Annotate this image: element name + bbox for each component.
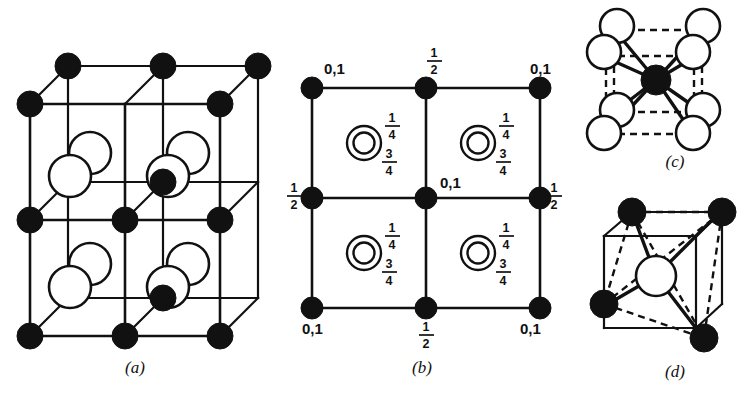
frac-denominator: 2: [431, 63, 438, 77]
double-circle-lower-left: [347, 236, 381, 270]
frac-numerator: 1: [431, 46, 438, 60]
frac-denominator: 4: [503, 128, 510, 142]
frac-denominator: 4: [389, 238, 396, 252]
label-top-left-height: 0,1: [324, 60, 345, 77]
ring-label-upper-left-quarter: 1 4: [385, 111, 400, 142]
frac-numerator: 3: [386, 147, 393, 161]
ring-label-upper-left-threequarter: 3 4: [382, 147, 397, 178]
double-circle-upper-right: [461, 126, 495, 160]
label-top-mid-half: 1 2: [427, 46, 442, 77]
panel-a-caption: (a): [105, 358, 165, 378]
panel-d-coordination-four: [586, 200, 744, 360]
frac-denominator: 4: [386, 164, 393, 178]
frac-denominator: 4: [386, 274, 393, 288]
frac-numerator: 3: [500, 147, 507, 161]
panel-c-caption: (c): [655, 152, 695, 172]
panel-d-center-open-atom: [636, 256, 676, 296]
label-center-height: 0,1: [440, 174, 461, 191]
label-bottom-right-height: 0,1: [520, 320, 541, 337]
label-mid-right-half: 1 2: [547, 181, 562, 212]
frac-denominator: 2: [551, 198, 558, 212]
frac-denominator: 2: [423, 337, 430, 351]
double-circle-upper-left: [347, 126, 381, 160]
ring-label-upper-right-quarter: 1 4: [499, 111, 514, 142]
frac-denominator: 4: [500, 164, 507, 178]
ring-label-lower-right-quarter: 1 4: [499, 221, 514, 252]
frac-numerator: 3: [386, 257, 393, 271]
panel-d-caption: (d): [655, 362, 695, 382]
panel-b-plan-projection: 0,1 0,1 0,1 0,1 0,1 1 2 1 2 1 2 1: [284, 46, 560, 346]
frac-denominator: 4: [500, 274, 507, 288]
panel-b-caption: (b): [392, 358, 452, 378]
ring-label-upper-right-threequarter: 3 4: [496, 147, 511, 178]
frac-numerator: 1: [551, 181, 558, 195]
frac-denominator: 4: [503, 238, 510, 252]
frac-numerator: 1: [503, 111, 510, 125]
frac-denominator: 2: [291, 198, 298, 212]
ring-label-lower-right-threequarter: 3 4: [496, 257, 511, 288]
label-mid-left-half: 1 2: [287, 181, 302, 212]
frac-numerator: 1: [389, 111, 396, 125]
figure-root: (a): [0, 0, 744, 405]
frac-numerator: 1: [389, 221, 396, 235]
ring-label-lower-left-quarter: 1 4: [385, 221, 400, 252]
ring-label-lower-left-threequarter: 3 4: [382, 257, 397, 288]
frac-numerator: 1: [503, 221, 510, 235]
panel-a-unit-cell: [8, 48, 280, 348]
frac-numerator: 1: [291, 181, 298, 195]
frac-denominator: 4: [389, 128, 396, 142]
double-circle-lower-right: [461, 236, 495, 270]
panel-c-coordination-eight: [576, 0, 742, 150]
label-bottom-mid-half: 1 2: [419, 320, 434, 351]
frac-numerator: 1: [423, 320, 430, 334]
label-top-right-height: 0,1: [530, 60, 551, 77]
label-bottom-left-height: 0,1: [302, 320, 323, 337]
panel-c-center-atom: [641, 65, 671, 95]
frac-numerator: 3: [500, 257, 507, 271]
